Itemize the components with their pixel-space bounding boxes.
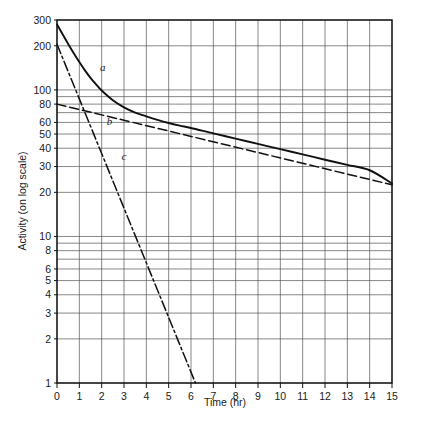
y-tick-label: 6	[45, 263, 51, 275]
y-tick-label: 4	[45, 288, 51, 300]
x-axis-title: Time (hr)	[204, 396, 246, 408]
y-tick-label: 30	[39, 160, 51, 172]
x-tick-label: 4	[143, 390, 149, 402]
x-tick-label: 2	[99, 390, 105, 402]
x-tick-label: 1	[76, 390, 82, 402]
chart-background	[0, 0, 424, 437]
x-tick-label: 13	[341, 390, 353, 402]
y-tick-label: 8	[45, 244, 51, 256]
x-tick-label: 0	[54, 390, 60, 402]
x-tick-label: 15	[386, 390, 398, 402]
chart-figure: 0123456789101112131415 12345681020304050…	[0, 0, 424, 437]
x-tick-label: 11	[297, 390, 308, 402]
y-tick-label: 5	[45, 274, 51, 286]
curve-label-b: b	[107, 115, 113, 127]
x-tick-label: 6	[188, 390, 194, 402]
curve-label-c: c	[122, 150, 127, 162]
y-tick-label: 80	[39, 98, 51, 110]
y-tick-label: 300	[33, 14, 51, 26]
x-tick-label: 10	[274, 390, 286, 402]
y-tick-label: 1	[45, 377, 51, 389]
y-tick-label: 3	[45, 307, 51, 319]
y-axis-title: Activity (on log scale)	[16, 151, 28, 250]
x-tick-label: 5	[166, 390, 172, 402]
y-tick-label: 100	[33, 84, 51, 96]
y-tick-label: 40	[39, 142, 51, 154]
y-tick-label: 200	[33, 40, 51, 52]
x-tick-label: 14	[364, 390, 376, 402]
y-tick-label: 10	[39, 230, 51, 242]
y-tick-label: 50	[39, 128, 51, 140]
curve-label-a: a	[100, 61, 106, 73]
y-tick-label: 60	[39, 116, 51, 128]
semilog-activity-plot: 0123456789101112131415 12345681020304050…	[0, 0, 424, 437]
y-tick-label: 20	[39, 186, 51, 198]
x-tick-label: 3	[121, 390, 127, 402]
y-tick-label: 2	[45, 333, 51, 345]
x-tick-label: 12	[319, 390, 331, 402]
x-tick-label: 9	[255, 390, 261, 402]
